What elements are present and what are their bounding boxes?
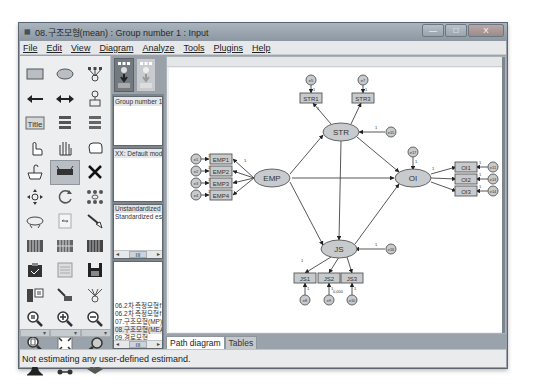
svg-text:EMP3: EMP3 — [213, 181, 230, 187]
path-diagram[interactable]: 11111111111111111110,000EMPSTRJSOIEMP1EM… — [169, 68, 502, 332]
parameter-formats-panel: Unstandardized estin Standardized estima… — [113, 204, 163, 259]
change-shape-icon[interactable] — [20, 185, 50, 210]
svg-text:EMP1: EMP1 — [213, 157, 230, 163]
rotate-indicators-icon[interactable] — [50, 185, 80, 210]
svg-text:e15: e15 — [388, 130, 395, 135]
tab-path-diagram[interactable]: Path diagram — [166, 336, 225, 349]
file-item[interactable]: 07.구조모형(MP) — [114, 318, 162, 326]
select-data-files-icon[interactable] — [20, 234, 50, 259]
model-item[interactable]: XX: Default model — [114, 149, 162, 158]
draw-path-icon[interactable] — [20, 87, 50, 112]
svg-text:1: 1 — [415, 159, 418, 164]
svg-text:STR3: STR3 — [355, 96, 371, 102]
touch-up-icon[interactable] — [80, 209, 110, 234]
list-model-variables-icon[interactable] — [50, 111, 80, 136]
svg-text:0,000: 0,000 — [333, 289, 344, 294]
svg-text:e11: e11 — [490, 165, 497, 170]
group-item[interactable]: Group number 1 — [114, 97, 162, 106]
menu-tools[interactable]: Tools — [183, 43, 204, 53]
calculate-estimates-icon[interactable] — [80, 234, 110, 259]
menu-bar: File Edit View Diagram Analyze Tools Plu… — [20, 41, 506, 55]
menu-view[interactable]: View — [71, 43, 90, 53]
svg-text:e16: e16 — [388, 247, 395, 252]
draw-indicator-variable-icon[interactable] — [80, 62, 110, 87]
figure-caption-icon[interactable]: Title — [20, 111, 50, 136]
maximize-button[interactable]: □ — [445, 24, 467, 37]
svg-text:OI: OI — [409, 174, 417, 183]
draw-unobserved-variable-icon[interactable] — [50, 62, 80, 87]
svg-text:e5: e5 — [309, 78, 314, 83]
toolbox-col1-scroll[interactable]: ▾ — [20, 329, 50, 337]
scroll-icon[interactable] — [50, 209, 80, 234]
svg-text:1: 1 — [354, 286, 357, 291]
canvas-vscrollbar[interactable] — [502, 57, 505, 333]
duplicate-objects-icon[interactable] — [20, 160, 50, 185]
svg-text:e2: e2 — [194, 169, 199, 174]
file-item-selected[interactable]: 08.구조모형(MEA — [114, 326, 162, 334]
svg-text:1: 1 — [479, 184, 482, 189]
reflect-indicators-icon[interactable] — [80, 185, 110, 210]
menu-file[interactable]: File — [23, 43, 38, 53]
preserve-symmetries-icon[interactable] — [80, 283, 110, 308]
deselect-all-objects-icon[interactable] — [80, 136, 110, 161]
format-item-unstandardized[interactable]: Unstandardized estin — [114, 205, 162, 213]
svg-text:e7: e7 — [361, 78, 366, 83]
move-objects-icon[interactable] — [50, 160, 80, 185]
toolbox-col3-scroll[interactable]: ▾ — [81, 329, 111, 337]
move-parameter-icon[interactable] — [20, 209, 50, 234]
files-panel: 06.2차 측정모형f 06.2차 측정모형f 07.구조모형(MP) 08.구… — [113, 261, 163, 349]
svg-text:e13: e13 — [490, 177, 497, 182]
minimize-button[interactable]: — — [422, 24, 444, 37]
zoom-out-icon[interactable] — [80, 307, 110, 332]
svg-text:1: 1 — [375, 242, 378, 247]
save-diagram-icon[interactable] — [80, 258, 110, 283]
svg-text:1: 1 — [313, 87, 316, 92]
file-item[interactable]: 06.2차 측정모형f — [114, 310, 162, 318]
view-text-icon[interactable] — [50, 258, 80, 283]
files-hscrollbar[interactable]: ◂III▸ — [114, 340, 162, 348]
svg-text:e8: e8 — [303, 298, 308, 303]
toolbox-scrollbars[interactable]: ▾ ▾ ▾ — [20, 329, 111, 337]
menu-help[interactable]: Help — [252, 43, 271, 53]
svg-text:OI3: OI3 — [461, 189, 471, 195]
add-unique-variable-icon[interactable] — [80, 87, 110, 112]
menu-analyze[interactable]: Analyze — [142, 43, 174, 53]
title-bar: ▦ 08.구조모형(mean) : Group number 1 : Input… — [19, 23, 507, 41]
menu-diagram[interactable]: Diagram — [99, 43, 133, 53]
analysis-properties-icon[interactable] — [50, 234, 80, 259]
object-properties-icon[interactable] — [20, 283, 50, 308]
zoom-selected-icon[interactable] — [20, 307, 50, 332]
copy-to-clipboard-icon[interactable] — [20, 258, 50, 283]
erase-objects-icon[interactable] — [80, 160, 110, 185]
toolbox: Title — [20, 56, 111, 337]
app-icon: ▦ — [22, 27, 32, 37]
drag-properties-icon[interactable] — [50, 283, 80, 308]
zoom-in-icon[interactable] — [50, 307, 80, 332]
draw-covariance-icon[interactable] — [50, 87, 80, 112]
select-one-object-icon[interactable] — [20, 136, 50, 161]
svg-text:e10: e10 — [349, 298, 356, 303]
svg-text:1: 1 — [307, 286, 310, 291]
close-button[interactable]: X — [468, 24, 504, 37]
svg-text:JS3: JS3 — [347, 276, 358, 282]
svg-text:JS1: JS1 — [300, 276, 311, 282]
view-input-path-diagram-button[interactable] — [114, 58, 134, 92]
svg-text:EMP4: EMP4 — [213, 193, 230, 199]
svg-text:EMP2: EMP2 — [213, 169, 230, 175]
amos-window: ▦ 08.구조모형(mean) : Group number 1 : Input… — [18, 22, 508, 369]
menu-edit[interactable]: Edit — [47, 43, 63, 53]
path-diagram-canvas[interactable]: 11111111111111111110,000EMPSTRJSOIEMP1EM… — [169, 68, 502, 332]
tab-tables[interactable]: Tables — [225, 336, 258, 349]
toolbox-col2-scroll[interactable]: ▾ — [50, 329, 80, 337]
list-dataset-variables-icon[interactable] — [80, 111, 110, 136]
svg-text:1: 1 — [244, 158, 247, 163]
format-item-standardized[interactable]: Standardized estimat — [114, 213, 162, 221]
file-item[interactable]: 06.2차 측정모형f — [114, 302, 162, 310]
draw-observed-variable-icon[interactable] — [20, 62, 50, 87]
menu-plugins[interactable]: Plugins — [213, 43, 243, 53]
formats-hscrollbar[interactable]: ◂III▸ — [114, 250, 162, 258]
svg-text:1: 1 — [301, 258, 304, 263]
view-output-path-diagram-button[interactable] — [136, 58, 156, 92]
view-tabs: Path diagram Tables — [166, 336, 257, 349]
select-all-objects-icon[interactable] — [50, 136, 80, 161]
